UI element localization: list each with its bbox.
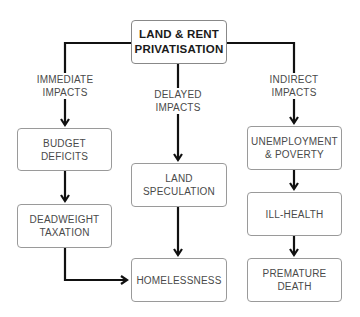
label-line1: INDIRECT: [264, 73, 324, 86]
label-line1: DELAYED: [148, 88, 208, 101]
branch-label-delayed: DELAYED IMPACTS: [148, 88, 208, 114]
node-text-line1: ILL-HEALTH: [266, 208, 324, 221]
node-text-line2: DEFICITS: [41, 150, 88, 163]
label-line1: IMMEDIATE: [22, 73, 108, 86]
node-text-line2: PRIVATISATION: [135, 42, 224, 57]
node-text-line2: DEATH: [277, 280, 311, 293]
node-text-line2: SPECULATION: [143, 185, 215, 198]
node-budget-deficits: BUDGET DEFICITS: [17, 128, 112, 171]
label-line2: IMPACTS: [22, 86, 108, 99]
node-unemployment-poverty: UNEMPLOYMENT & POVERTY: [247, 126, 342, 170]
node-land-speculation: LAND SPECULATION: [131, 163, 227, 207]
node-premature-death: PREMATURE DEATH: [247, 258, 342, 302]
node-land-rent-privatisation: LAND & RENT PRIVATISATION: [131, 20, 227, 64]
edge-deadweight-homelessness: [65, 248, 127, 280]
node-text-line2: TAXATION: [39, 226, 89, 239]
node-text-line2: & POVERTY: [265, 148, 324, 161]
node-text-line1: LAND: [165, 172, 192, 185]
node-text-line1: BUDGET: [43, 137, 86, 150]
label-line2: IMPACTS: [264, 86, 324, 99]
node-text-line1: DEADWEIGHT: [30, 213, 100, 226]
node-ill-health: ILL-HEALTH: [247, 192, 342, 236]
node-deadweight-taxation: DEADWEIGHT TAXATION: [17, 204, 112, 248]
node-homelessness: HOMELESSNESS: [131, 258, 227, 302]
label-line2: IMPACTS: [148, 101, 208, 114]
node-text-line1: HOMELESSNESS: [136, 274, 221, 287]
branch-label-immediate: IMMEDIATE IMPACTS: [22, 73, 108, 99]
node-text-line1: UNEMPLOYMENT: [251, 135, 338, 148]
branch-label-indirect: INDIRECT IMPACTS: [264, 73, 324, 99]
node-text-line1: PREMATURE: [263, 267, 327, 280]
node-text-line1: LAND & RENT: [139, 27, 219, 42]
